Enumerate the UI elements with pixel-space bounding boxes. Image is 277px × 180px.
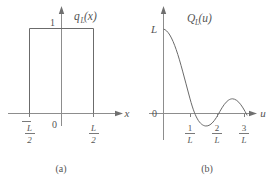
panel-b-tick-1-denominator: L — [186, 135, 192, 145]
panel-a-tick-label-neg: L 2 — [22, 122, 35, 146]
panel-b-tick-label-2: 2 L — [212, 123, 222, 145]
panel-a: 1 0 q L (x) x L 2 L 2 (a) — [0, 0, 139, 180]
panel-a-caption: (a) — [55, 163, 66, 175]
panel-b-x-axis-label: u — [260, 107, 266, 119]
panel-b-tick-2-numerator: 2 — [215, 123, 220, 133]
panel-b-function-label: Q L (u) — [187, 12, 212, 27]
panel-a-function-label: q L (x) — [74, 10, 97, 25]
panel-b-tick-3-denominator: L — [240, 135, 246, 145]
panel-b-tick-label-1: 1 L — [185, 123, 195, 145]
panel-b: L 0 Q L (u) u 1 L 2 L 3 L (b) — [139, 0, 277, 180]
panel-b-tick-label-3: 3 L — [239, 123, 249, 145]
panel-a-y-value-label: 1 — [50, 17, 55, 28]
panel-a-x-axis-label: x — [124, 107, 130, 119]
panel-a-x-axis-arrow — [115, 111, 123, 116]
panel-a-function-argument: (x) — [84, 10, 97, 23]
panel-a-y-axis-arrow — [59, 6, 64, 14]
panel-a-tick-pos-denominator: 2 — [91, 135, 96, 145]
panel-a-tick-neg-numerator: L — [26, 123, 32, 133]
panel-b-function-argument: (u) — [199, 12, 213, 25]
figure-root: 1 0 q L (x) x L 2 L 2 (a) — [0, 0, 277, 180]
panel-b-y-value-label: L — [150, 23, 157, 35]
panel-b-tick-3-numerator: 3 — [242, 123, 247, 133]
panel-b-sinc-curve — [164, 29, 248, 126]
panel-b-y-axis-arrow — [161, 6, 166, 14]
panel-a-tick-label-pos: L 2 — [89, 123, 99, 145]
panel-a-function-base: q — [74, 10, 80, 23]
panel-b-caption: (b) — [201, 163, 213, 175]
panel-b-origin-label: 0 — [152, 108, 157, 119]
panel-a-origin-label: 0 — [52, 119, 57, 130]
panel-b-x-axis-arrow — [249, 111, 257, 116]
panel-b-tick-2-denominator: L — [213, 135, 219, 145]
panel-b-tick-1-numerator: 1 — [188, 123, 193, 133]
panel-a-tick-neg-denominator: 2 — [27, 135, 32, 145]
panel-a-tick-pos-numerator: L — [90, 123, 96, 133]
